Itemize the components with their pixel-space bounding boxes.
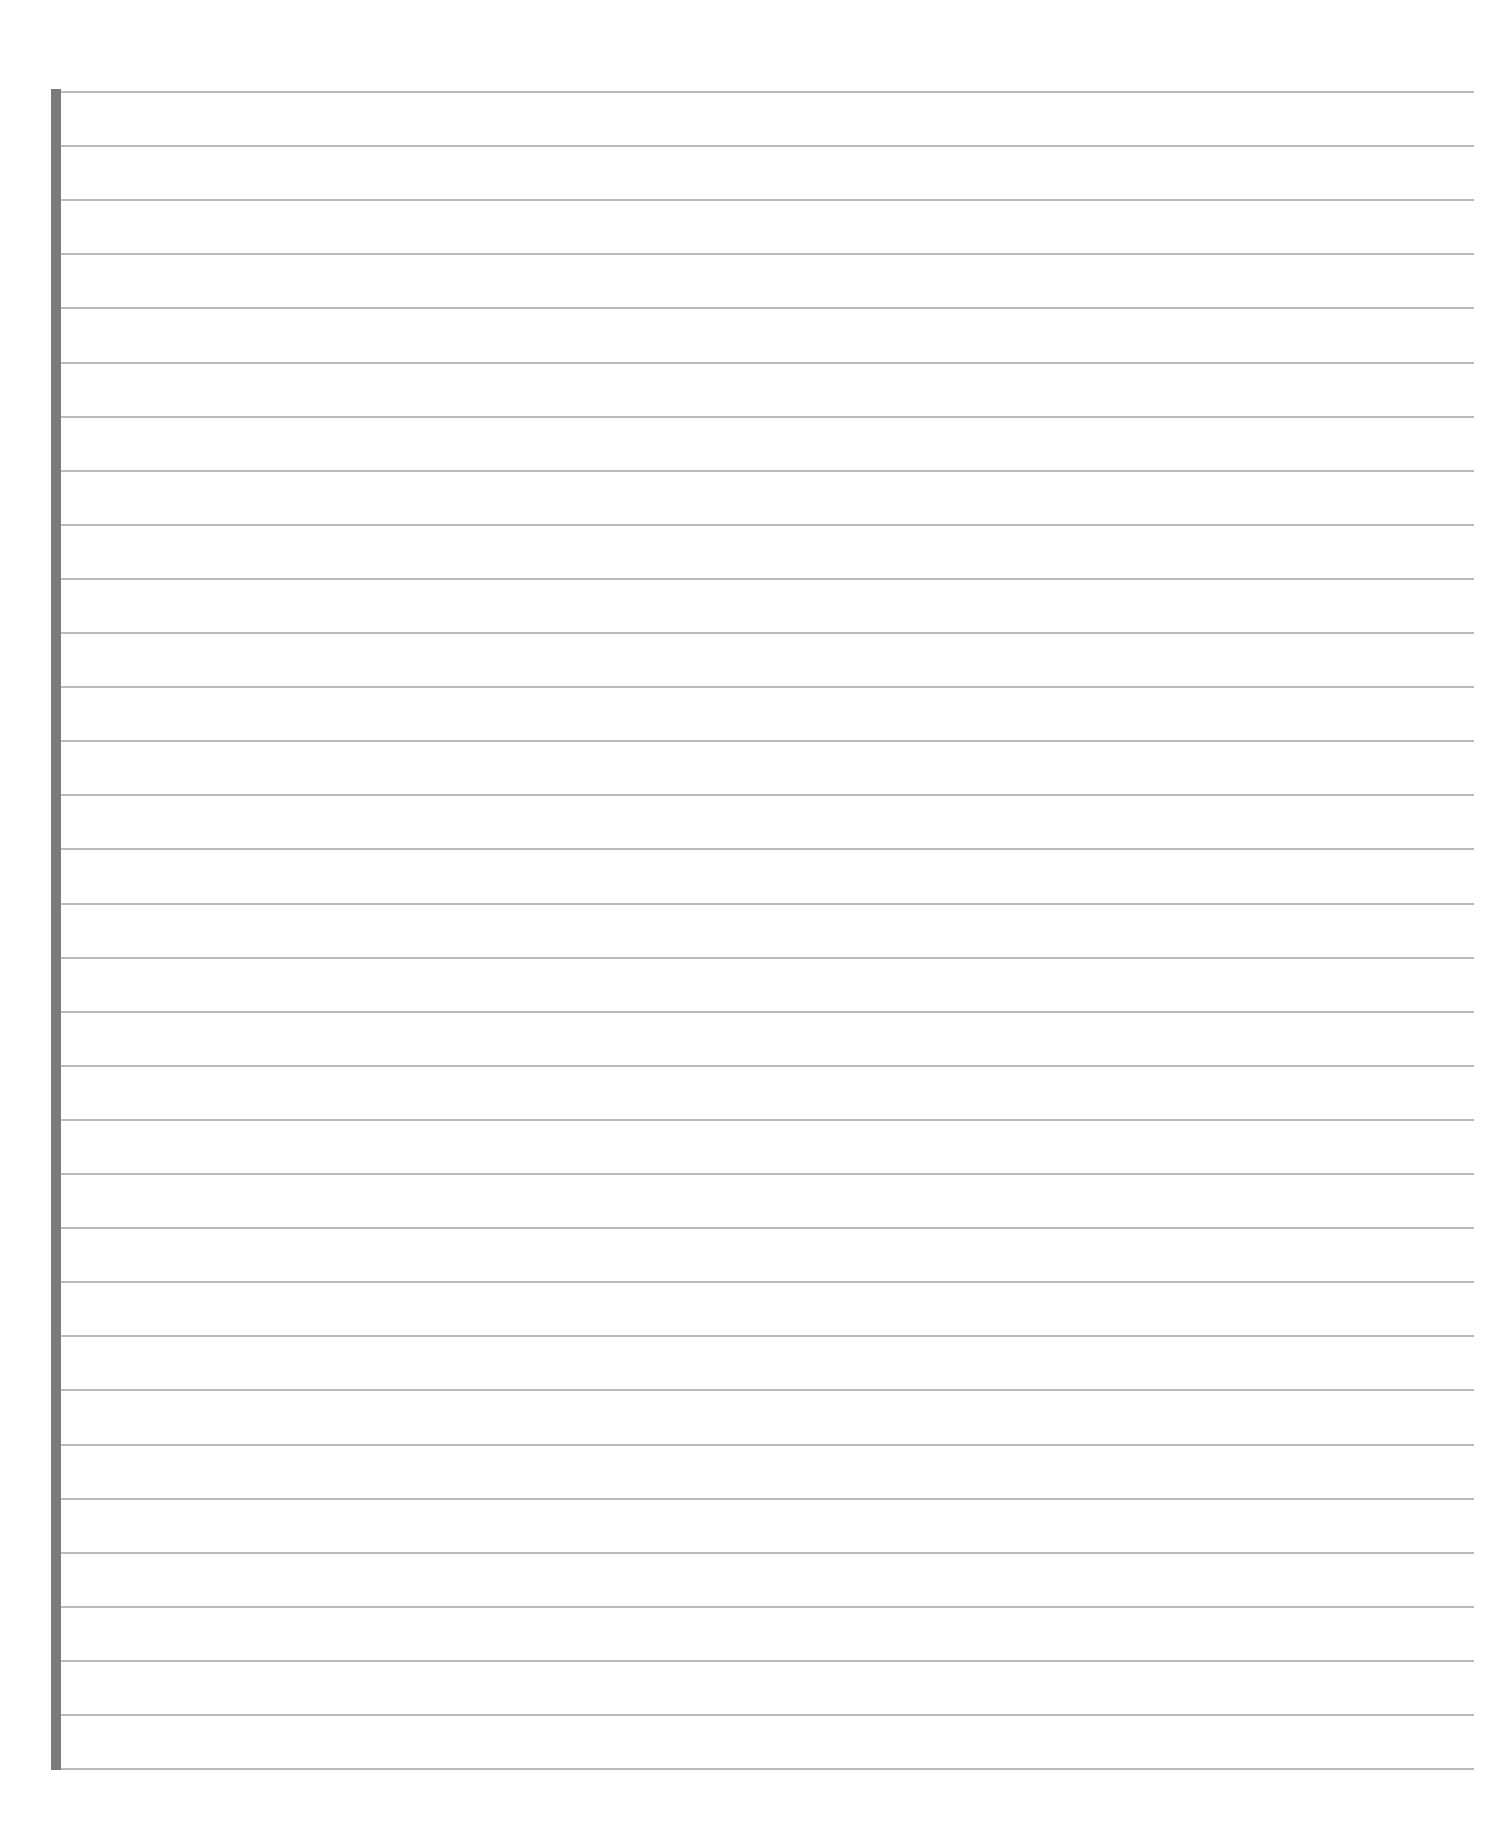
ruled-line	[61, 253, 1474, 255]
left-margin-bar	[51, 89, 61, 1770]
ruled-line	[61, 1173, 1474, 1175]
ruled-line	[61, 794, 1474, 796]
ruled-line	[61, 362, 1474, 364]
ruled-line	[61, 1281, 1474, 1283]
lined-paper-sheet	[0, 0, 1487, 1824]
ruled-line	[61, 145, 1474, 147]
ruled-line	[61, 1768, 1474, 1770]
ruled-line	[61, 1335, 1474, 1337]
ruled-line	[61, 1065, 1474, 1067]
ruled-line	[61, 903, 1474, 905]
ruled-line	[61, 91, 1474, 93]
ruled-line	[61, 199, 1474, 201]
ruled-line	[61, 1498, 1474, 1500]
ruled-line	[61, 1444, 1474, 1446]
ruled-line	[61, 957, 1474, 959]
ruled-line	[61, 1389, 1474, 1391]
ruled-line	[61, 1119, 1474, 1121]
ruled-line	[61, 1714, 1474, 1716]
ruled-line	[61, 307, 1474, 309]
ruled-line	[61, 1227, 1474, 1229]
ruled-line	[61, 470, 1474, 472]
ruled-line	[61, 1660, 1474, 1662]
ruled-line	[61, 632, 1474, 634]
ruled-line	[61, 740, 1474, 742]
ruled-line	[61, 416, 1474, 418]
ruled-line	[61, 578, 1474, 580]
ruled-line	[61, 686, 1474, 688]
ruled-line	[61, 1552, 1474, 1554]
ruled-line	[61, 1011, 1474, 1013]
ruled-line	[61, 1606, 1474, 1608]
ruled-line	[61, 848, 1474, 850]
ruled-line	[61, 524, 1474, 526]
